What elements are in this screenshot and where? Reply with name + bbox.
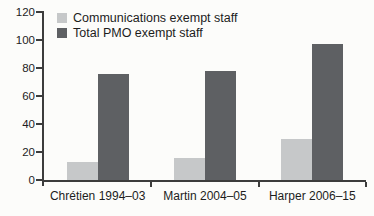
x-category-label: Martin 2004–05: [145, 190, 265, 203]
y-axis-tick: [36, 39, 42, 41]
x-category-label: Chrétien 1994–03: [38, 190, 158, 203]
legend-item-total-pmo: Total PMO exempt staff: [57, 25, 237, 40]
y-axis-tick: [36, 179, 42, 181]
x-axis-line: [42, 180, 366, 182]
y-tick-label: 80: [5, 62, 35, 74]
x-axis-tick: [150, 182, 152, 187]
y-tick-label: 20: [5, 146, 35, 158]
legend-item-communications: Communications exempt staff: [57, 10, 237, 25]
x-axis-tick: [258, 182, 260, 187]
bar-total-pmo-0: [98, 74, 129, 180]
bar-communications-1: [174, 158, 205, 180]
y-tick-label: 100: [5, 34, 35, 46]
y-axis-tick: [36, 123, 42, 125]
bar-communications-0: [67, 162, 98, 180]
y-tick-label: 40: [5, 118, 35, 130]
legend-label-communications: Communications exempt staff: [73, 11, 237, 25]
y-tick-label: 0: [5, 174, 35, 186]
legend-swatch-total-pmo-icon: [57, 28, 67, 38]
x-axis-tick: [365, 182, 367, 187]
y-axis-tick: [36, 67, 42, 69]
grouped-bar-chart: Communications exempt staff Total PMO ex…: [0, 0, 374, 216]
bar-communications-2: [281, 139, 312, 180]
legend-swatch-communications-icon: [57, 13, 67, 23]
x-category-label: Harper 2006–15: [252, 190, 372, 203]
y-axis-tick: [36, 11, 42, 13]
y-tick-label: 120: [5, 6, 35, 18]
y-tick-label: 60: [5, 90, 35, 102]
y-axis-line: [42, 11, 44, 186]
y-axis-tick: [36, 95, 42, 97]
bar-total-pmo-2: [312, 44, 343, 180]
legend: Communications exempt staff Total PMO ex…: [57, 10, 237, 40]
legend-label-total-pmo: Total PMO exempt staff: [73, 26, 203, 40]
bar-total-pmo-1: [205, 71, 236, 180]
y-axis-tick: [36, 151, 42, 153]
